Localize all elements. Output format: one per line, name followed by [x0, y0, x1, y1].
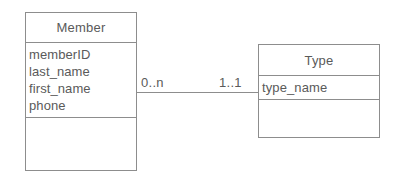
attribute-row: phone [29, 97, 136, 114]
attribute-row: memberID [29, 46, 136, 63]
entity-member[interactable]: Member memberID last_name first_name pho… [25, 12, 137, 171]
attribute-row: type_name [262, 79, 379, 96]
multiplicity-source-label: 0..n [141, 75, 164, 90]
association-line[interactable] [136, 92, 259, 93]
attribute-row: first_name [29, 80, 136, 97]
entity-type-attributes: type_name [259, 76, 379, 100]
entity-member-attributes: memberID last_name first_name phone [26, 43, 136, 118]
attribute-row: last_name [29, 63, 136, 80]
entity-member-operations [26, 118, 136, 170]
entity-type[interactable]: Type type_name [258, 44, 380, 138]
entity-type-name: Type [259, 45, 379, 76]
entity-member-name: Member [26, 13, 136, 43]
multiplicity-target-label: 1..1 [219, 75, 242, 90]
entity-type-operations [259, 100, 379, 137]
uml-class-diagram-canvas: Member memberID last_name first_name pho… [0, 0, 401, 183]
